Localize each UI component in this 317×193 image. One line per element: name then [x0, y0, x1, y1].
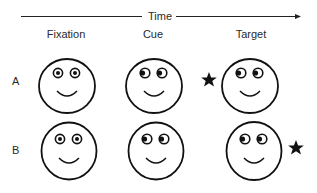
- eye-left: [236, 68, 246, 78]
- smile: [244, 158, 264, 163]
- row-label-b: B: [12, 144, 19, 156]
- smile: [240, 91, 260, 96]
- column-header-cue: Cue: [143, 28, 163, 40]
- eye-left: [53, 68, 62, 77]
- time-axis-label: Time: [144, 10, 176, 22]
- smile: [57, 91, 77, 96]
- row-b: [42, 122, 304, 180]
- eye-left: [140, 68, 150, 78]
- face-fixation-a: [39, 59, 95, 113]
- face-fixation-b: [42, 123, 97, 180]
- eye-right: [159, 134, 169, 144]
- face-cue-a: [126, 59, 182, 113]
- row-a: [39, 59, 278, 113]
- star-icon: [201, 72, 217, 87]
- smile: [144, 91, 164, 96]
- face-target-b: [227, 122, 282, 180]
- eye-left: [55, 134, 64, 143]
- face-cue-b: [129, 123, 184, 180]
- eye-right: [253, 68, 263, 78]
- smile: [59, 158, 79, 163]
- row-label-a: A: [12, 75, 19, 87]
- eye-right: [157, 68, 167, 78]
- column-header-target: Target: [236, 28, 267, 40]
- eye-right: [72, 134, 81, 143]
- eye-left: [142, 134, 152, 144]
- smile: [146, 158, 166, 163]
- arrow-right-icon: [295, 14, 301, 19]
- face-target-a: [222, 59, 278, 113]
- eye-right: [257, 134, 267, 144]
- star-icon: [288, 140, 304, 155]
- column-header-fixation: Fixation: [47, 28, 86, 40]
- eye-left: [240, 134, 250, 144]
- eye-right: [70, 68, 79, 77]
